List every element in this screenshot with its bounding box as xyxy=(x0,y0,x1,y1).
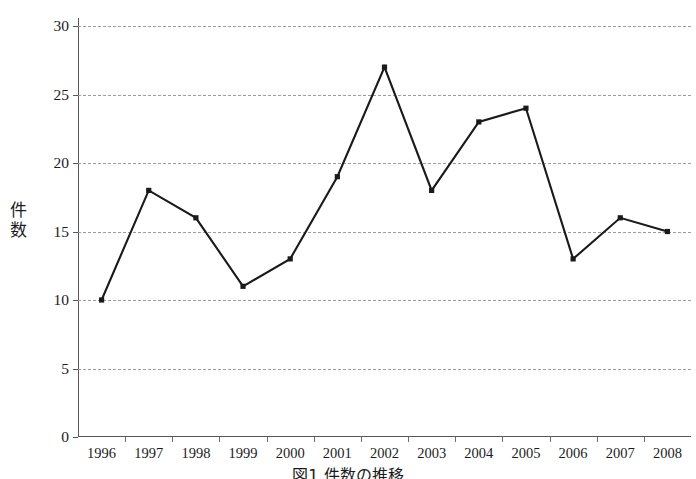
y-axis-label: 件 数 xyxy=(6,200,30,240)
x-tick-mark xyxy=(314,437,315,442)
x-tick-mark xyxy=(455,437,456,442)
data-point-marker[interactable] xyxy=(335,174,340,179)
data-point-marker[interactable] xyxy=(288,256,293,261)
line-series xyxy=(78,26,691,437)
x-tick-mark xyxy=(172,437,173,442)
x-tick-label: 1998 xyxy=(181,446,210,461)
data-point-marker[interactable] xyxy=(618,215,623,220)
figure-caption: 図1 件数の推移 xyxy=(0,466,696,479)
x-tick-mark xyxy=(644,437,645,442)
x-tick-label: 2005 xyxy=(511,446,540,461)
x-tick-label: 2000 xyxy=(276,446,305,461)
data-point-marker[interactable] xyxy=(382,65,387,70)
y-tick-label: 0 xyxy=(61,429,69,445)
data-point-marker[interactable] xyxy=(571,256,576,261)
chart-page: 件 数 051015202530 19961997199819992000200… xyxy=(0,0,696,479)
y-tick-label: 20 xyxy=(54,155,70,171)
x-tick-mark xyxy=(597,437,598,442)
data-point-marker[interactable] xyxy=(476,119,481,124)
data-point-marker[interactable] xyxy=(523,106,528,111)
x-tick-label: 2002 xyxy=(370,446,399,461)
x-tick-mark xyxy=(267,437,268,442)
data-point-marker[interactable] xyxy=(99,297,104,302)
x-tick-mark xyxy=(361,437,362,442)
x-tick-label: 1997 xyxy=(134,446,163,461)
data-point-marker[interactable] xyxy=(665,229,670,234)
x-tick-mark xyxy=(550,437,551,442)
y-tick-label: 5 xyxy=(61,361,69,377)
y-tick-mark xyxy=(73,437,78,438)
data-point-marker[interactable] xyxy=(193,215,198,220)
x-tick-label: 1996 xyxy=(87,446,116,461)
x-tick-mark xyxy=(219,437,220,442)
x-tick-label: 1999 xyxy=(229,446,258,461)
x-tick-label: 2007 xyxy=(606,446,635,461)
x-tick-mark xyxy=(125,437,126,442)
y-tick-label: 10 xyxy=(54,292,70,308)
x-tick-label: 2008 xyxy=(653,446,682,461)
data-point-marker[interactable] xyxy=(429,188,434,193)
x-tick-mark xyxy=(408,437,409,442)
y-tick-label: 15 xyxy=(54,224,70,240)
y-tick-label: 25 xyxy=(54,87,70,103)
x-tick-mark xyxy=(502,437,503,442)
y-axis-label-char-2: 数 xyxy=(6,220,30,240)
y-tick-label: 30 xyxy=(54,18,70,34)
series-line xyxy=(102,67,668,300)
x-tick-label: 2003 xyxy=(417,446,446,461)
x-tick-label: 2006 xyxy=(559,446,588,461)
y-axis-label-char-1: 件 xyxy=(6,200,30,220)
x-tick-label: 2001 xyxy=(323,446,352,461)
data-point-marker[interactable] xyxy=(146,188,151,193)
plot-area: 051015202530 199619971998199920002001200… xyxy=(78,26,691,437)
data-point-marker[interactable] xyxy=(240,284,245,289)
x-tick-label: 2004 xyxy=(464,446,493,461)
